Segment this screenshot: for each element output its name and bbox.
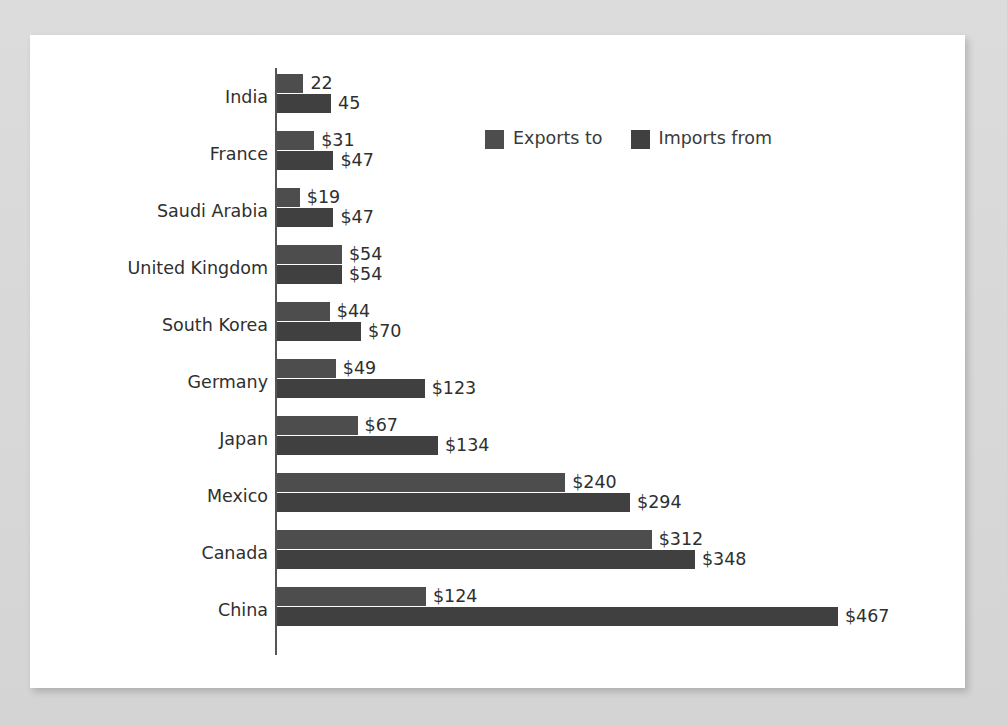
category-label: Canada <box>201 545 268 563</box>
bar-value-label: $467 <box>845 608 890 626</box>
bar-rect <box>277 94 331 113</box>
bar-imports-from[interactable]: $54 <box>277 265 965 284</box>
category-label: Germany <box>188 374 268 392</box>
bar-rect <box>277 322 361 341</box>
bar-rect <box>277 379 425 398</box>
bar-value-label: 22 <box>310 75 332 93</box>
bar-rect <box>277 550 695 569</box>
bar-value-label: $240 <box>572 474 617 492</box>
bar-exports-to[interactable]: $240 <box>277 473 965 492</box>
bar-imports-from[interactable]: $134 <box>277 436 965 455</box>
bar-exports-to[interactable]: $44 <box>277 302 965 321</box>
bar-group: $54$54 <box>277 245 965 284</box>
bar-rect <box>277 493 630 512</box>
category-label: China <box>218 602 268 620</box>
bar-imports-from[interactable]: $348 <box>277 550 965 569</box>
bar-value-label: $294 <box>637 494 682 512</box>
bar-group: 2245 <box>277 74 965 113</box>
bar-value-label: $67 <box>365 417 398 435</box>
bar-row: Japan$67$134 <box>30 411 965 468</box>
bar-group: $31$47 <box>277 131 965 170</box>
bar-imports-from[interactable]: $47 <box>277 208 965 227</box>
bar-rect <box>277 208 333 227</box>
bar-group: $67$134 <box>277 416 965 455</box>
bar-row: Saudi Arabia$19$47 <box>30 183 965 240</box>
bar-group: $312$348 <box>277 530 965 569</box>
bar-rect <box>277 607 838 626</box>
bar-rect <box>277 302 330 321</box>
bar-rows: India2245France$31$47Saudi Arabia$19$47U… <box>30 69 965 639</box>
category-label: India <box>225 89 268 107</box>
bar-row: China$124$467 <box>30 582 965 639</box>
bar-exports-to[interactable]: $49 <box>277 359 965 378</box>
bar-value-label: $54 <box>349 266 382 284</box>
bar-imports-from[interactable]: $70 <box>277 322 965 341</box>
chart-card: Exports toImports from India2245France$3… <box>30 35 965 688</box>
bar-imports-from[interactable]: $123 <box>277 379 965 398</box>
bar-group: $124$467 <box>277 587 965 626</box>
bar-row: Mexico$240$294 <box>30 468 965 525</box>
category-label: Japan <box>219 431 268 449</box>
bar-exports-to[interactable]: $31 <box>277 131 965 150</box>
bar-row: United Kingdom$54$54 <box>30 240 965 297</box>
bar-value-label: $70 <box>368 323 401 341</box>
bar-value-label: $348 <box>702 551 747 569</box>
category-label: South Korea <box>162 317 268 335</box>
bar-value-label: $134 <box>445 437 490 455</box>
bar-row: India2245 <box>30 69 965 126</box>
bar-exports-to[interactable]: $67 <box>277 416 965 435</box>
bar-value-label: $54 <box>349 246 382 264</box>
bar-exports-to[interactable]: 22 <box>277 74 965 93</box>
bar-rect <box>277 151 333 170</box>
category-label: France <box>210 146 268 164</box>
bar-value-label: $31 <box>321 132 354 150</box>
bar-rect <box>277 359 336 378</box>
bar-value-label: $124 <box>433 588 478 606</box>
bar-row: South Korea$44$70 <box>30 297 965 354</box>
bar-rect <box>277 74 303 93</box>
bar-imports-from[interactable]: 45 <box>277 94 965 113</box>
category-label: Mexico <box>207 488 268 506</box>
bar-exports-to[interactable]: $54 <box>277 245 965 264</box>
bar-rect <box>277 131 314 150</box>
bar-rect <box>277 245 342 264</box>
bar-exports-to[interactable]: $312 <box>277 530 965 549</box>
bar-group: $49$123 <box>277 359 965 398</box>
bar-rect <box>277 473 565 492</box>
bar-imports-from[interactable]: $467 <box>277 607 965 626</box>
category-label: Saudi Arabia <box>157 203 268 221</box>
screenshot-root: Exports toImports from India2245France$3… <box>0 0 1007 725</box>
bar-row: Germany$49$123 <box>30 354 965 411</box>
bar-value-label: 45 <box>338 95 360 113</box>
bar-rect <box>277 530 652 549</box>
bar-value-label: $47 <box>340 152 373 170</box>
bar-value-label: $123 <box>432 380 477 398</box>
bar-group: $240$294 <box>277 473 965 512</box>
bar-value-label: $49 <box>343 360 376 378</box>
bar-exports-to[interactable]: $124 <box>277 587 965 606</box>
bar-group: $19$47 <box>277 188 965 227</box>
bar-imports-from[interactable]: $294 <box>277 493 965 512</box>
bar-value-label: $312 <box>659 531 704 549</box>
bar-rect <box>277 265 342 284</box>
bar-group: $44$70 <box>277 302 965 341</box>
bar-rect <box>277 188 300 207</box>
bar-value-label: $47 <box>340 209 373 227</box>
category-label: United Kingdom <box>128 260 268 278</box>
bar-row: France$31$47 <box>30 126 965 183</box>
bar-imports-from[interactable]: $47 <box>277 151 965 170</box>
bar-exports-to[interactable]: $19 <box>277 188 965 207</box>
bar-rect <box>277 436 438 455</box>
bar-chart: Exports toImports from India2245France$3… <box>30 35 965 688</box>
bar-value-label: $44 <box>337 303 370 321</box>
bar-rect <box>277 416 358 435</box>
bar-rect <box>277 587 426 606</box>
bar-row: Canada$312$348 <box>30 525 965 582</box>
bar-value-label: $19 <box>307 189 340 207</box>
